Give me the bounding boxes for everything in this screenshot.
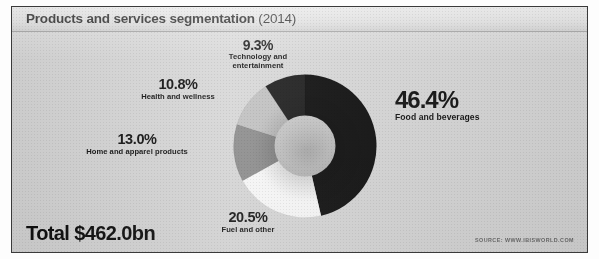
callout-technology-label-line2: entertainment (194, 61, 322, 70)
callout-food-label: Food and beverages (395, 112, 575, 122)
callout-health-and-wellness: 10.8% Health and wellness (116, 77, 240, 101)
title-bar: Products and services segmentation (2014… (12, 7, 587, 32)
page-title-year: (2014) (258, 11, 296, 26)
chart-frame: Products and services segmentation (2014… (11, 6, 588, 253)
callout-home-percent: 13.0% (62, 132, 212, 147)
page-title: Products and services segmentation (2014… (26, 11, 296, 26)
callout-home-and-apparel: 13.0% Home and apparel products (62, 132, 212, 156)
donut-drop-shadow (236, 79, 378, 221)
callout-health-label: Health and wellness (116, 92, 240, 101)
infographic-page: Products and services segmentation (2014… (0, 0, 599, 259)
callout-fuel-label: Fuel and other (190, 225, 306, 234)
chart-area: 9.3% Technology and entertainment 10.8% … (12, 32, 588, 253)
page-title-text: Products and services segmentation (26, 11, 255, 26)
source-credit: SOURCE: WWW.IBISWORLD.COM (475, 237, 574, 243)
callout-technology-percent: 9.3% (194, 38, 322, 52)
donut-chart (231, 72, 379, 220)
total-value: Total $462.0bn (26, 222, 155, 245)
callout-food-and-beverages: 46.4% Food and beverages (395, 88, 575, 122)
callout-fuel-and-other: 20.5% Fuel and other (190, 210, 306, 234)
callout-home-label: Home and apparel products (62, 147, 212, 156)
callout-technology-label-line1: Technology and (194, 52, 322, 61)
callout-health-percent: 10.8% (116, 77, 240, 92)
callout-technology-and-entertainment: 9.3% Technology and entertainment (194, 38, 322, 71)
callout-food-percent: 46.4% (395, 88, 575, 112)
callout-fuel-percent: 20.5% (190, 210, 306, 225)
